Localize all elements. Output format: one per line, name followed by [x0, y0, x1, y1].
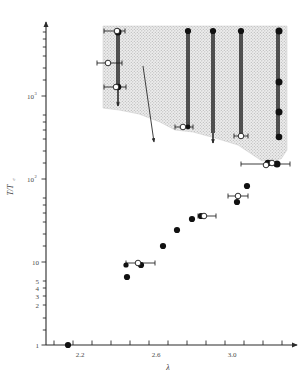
y-axis-title-subscript: c [11, 178, 16, 181]
data-point-filled [276, 28, 283, 35]
x-tick-label-3-0: 3.0 [228, 351, 237, 359]
data-point-filled [234, 199, 240, 205]
y-tick-label-one: 1 [36, 342, 40, 350]
y-axis-title-text: T/T [6, 184, 15, 196]
y-tick-label-1e2-exponent: 2 [35, 174, 38, 179]
shaded-region-group [103, 26, 287, 161]
data-point-open [263, 162, 269, 168]
data-point-open [238, 133, 244, 139]
x-axis-group: 2.2 2.6 3.0 λ [46, 341, 297, 373]
data-point-filled [185, 28, 191, 34]
data-point-filled [276, 109, 283, 116]
data-point-filled [189, 216, 195, 222]
data-point-filled [174, 227, 180, 233]
x-tick-label-2-2: 2.2 [76, 351, 85, 359]
data-point-open [114, 28, 120, 34]
y-tick-label-three: 3 [36, 293, 40, 301]
x-axis-ticks [54, 341, 282, 346]
y-tick-label-ten: 10 [32, 259, 40, 267]
data-point-filled [210, 28, 216, 34]
data-point-filled [123, 262, 128, 267]
data-point-open [201, 213, 207, 219]
data-point-filled [65, 342, 71, 348]
data-point-filled [186, 125, 191, 130]
y-tick-label-four: 4 [36, 285, 40, 293]
data-point-filled [238, 28, 244, 34]
data-point-filled [276, 134, 283, 141]
data-point-open [113, 84, 119, 90]
scatter-plot-svg: filled-circles 1 2 3 4 5 10 10 2 10 3 T/… [0, 0, 305, 376]
y-tick-label-1e3-exponent: 3 [35, 91, 38, 96]
data-point-filled [276, 79, 283, 86]
y-tick-label-1e3: 10 3 [27, 91, 38, 101]
y-tick-label-two: 2 [36, 302, 40, 310]
y-tick-label-1e3-mantissa: 10 [27, 93, 35, 101]
data-point-open [269, 160, 275, 166]
y-axis-group: filled-circles 1 2 3 4 5 10 10 2 10 3 T/… [4, 22, 46, 350]
stippled-region [103, 26, 287, 161]
figure-container: filled-circles 1 2 3 4 5 10 10 2 10 3 T/… [0, 0, 305, 376]
data-point-open [105, 60, 111, 66]
data-point-filled [160, 243, 166, 249]
y-tick-label-1e2: 10 2 [27, 174, 38, 184]
x-axis-title: λ [165, 363, 170, 372]
data-point-filled [124, 274, 130, 280]
y-tick-label-1e2-mantissa: 10 [27, 176, 35, 184]
y-axis-ticks [42, 32, 47, 345]
data-point-open [235, 193, 241, 199]
x-tick-label-2-6: 2.6 [152, 351, 161, 359]
y-axis-title: T/T c [6, 178, 16, 196]
y-tick-label-five: 5 [36, 278, 40, 286]
data-point-open [180, 124, 186, 130]
data-point-filled [244, 183, 250, 189]
data-point-open [135, 260, 141, 266]
